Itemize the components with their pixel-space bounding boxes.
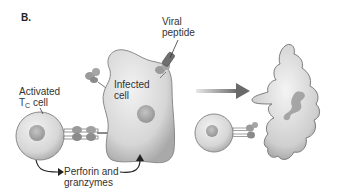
tc-label-line1: Activated xyxy=(19,86,60,97)
activated-tc-cell xyxy=(16,108,64,160)
perforin-label-line1: Perforin and xyxy=(64,166,118,177)
tc-label-line2: TC cell xyxy=(19,97,60,111)
transition-arrow xyxy=(196,83,250,99)
perforin-granzymes-label: Perforin and granzymes xyxy=(64,166,118,188)
perforin-label-line2: granzymes xyxy=(64,177,118,188)
infected-cell-label-line1: Infected xyxy=(114,79,150,90)
diagram-stage: B. Viral peptide Infected cell Activated… xyxy=(0,0,351,190)
infected-cell-label-line2: cell xyxy=(114,90,150,101)
dying-cell xyxy=(252,44,320,159)
viral-peptide-label-line2: peptide xyxy=(162,27,195,38)
activated-tc-cell-label: Activated TC cell xyxy=(19,86,60,111)
tcr-mhc-complex xyxy=(64,126,111,141)
tc-cell-after xyxy=(195,114,258,152)
tc-label-cell: cell xyxy=(30,97,48,108)
infected-cell-label: Infected cell xyxy=(114,79,150,101)
viral-peptide-label-line1: Viral xyxy=(162,16,195,27)
mhc-complex-top xyxy=(85,68,106,88)
viral-peptide-label: Viral peptide xyxy=(162,16,195,38)
panel-label: B. xyxy=(21,12,31,23)
